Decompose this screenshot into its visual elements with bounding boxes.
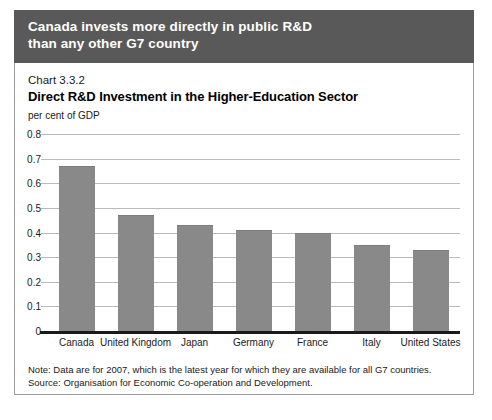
- x-axis-baseline: [40, 331, 460, 334]
- chart-number: Chart 3.3.2: [28, 74, 85, 86]
- x-axis-category-label: Italy: [362, 337, 380, 348]
- plot-area: 00.10.20.30.40.50.60.70.8 CanadaUnited K…: [47, 134, 460, 331]
- bar: [118, 215, 154, 331]
- bar: [295, 233, 331, 332]
- chart-title: Direct R&D Investment in the Higher-Educ…: [28, 89, 358, 104]
- bar: [177, 225, 213, 331]
- x-axis-category-label: Canada: [59, 337, 94, 348]
- y-axis-tick-label: 0.2: [27, 276, 41, 287]
- bar-series: [47, 134, 460, 331]
- headline-line-1: Canada invests more directly in public R…: [28, 18, 462, 35]
- chart-footnotes: Note: Data are for 2007, which is the la…: [28, 364, 458, 389]
- bar: [236, 230, 272, 331]
- bar: [59, 166, 95, 331]
- headline-line-2: than any other G7 country: [28, 35, 462, 52]
- y-axis-tick-label: 0.8: [27, 129, 41, 140]
- y-axis-tick-label: 0.1: [27, 301, 41, 312]
- source-text: Source: Organisation for Economic Co-ope…: [28, 377, 458, 390]
- x-axis-category-label: United States: [400, 337, 460, 348]
- x-axis-category-label: France: [297, 337, 328, 348]
- y-axis-tick-label: 0.3: [27, 252, 41, 263]
- y-axis-tick-label: 0.5: [27, 202, 41, 213]
- y-axis-tick-label: 0.6: [27, 178, 41, 189]
- x-axis-category-label: Germany: [233, 337, 274, 348]
- x-axis-category-label: Japan: [181, 337, 208, 348]
- bar: [354, 245, 390, 331]
- bar: [413, 250, 449, 331]
- y-axis-unit-label: per cent of GDP: [28, 110, 100, 121]
- note-text: Note: Data are for 2007, which is the la…: [28, 364, 458, 377]
- y-axis-tick-label: 0.4: [27, 227, 41, 238]
- y-axis-tick-label: 0.7: [27, 153, 41, 164]
- x-axis-category-label: United Kingdom: [100, 337, 171, 348]
- headline-banner: Canada invests more directly in public R…: [14, 10, 474, 63]
- chart-page: Canada invests more directly in public R…: [0, 0, 492, 420]
